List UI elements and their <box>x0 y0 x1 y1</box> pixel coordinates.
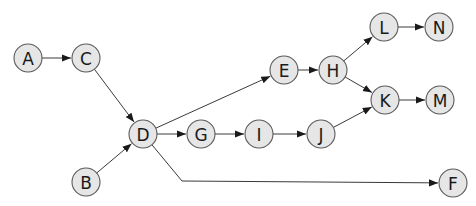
node-e: E <box>270 56 298 84</box>
edge-h-to-k <box>345 77 372 93</box>
node-m: M <box>426 86 454 114</box>
node-label: F <box>448 174 458 194</box>
node-label: A <box>22 49 34 69</box>
node-label: D <box>136 125 149 145</box>
node-label: K <box>379 91 391 111</box>
node-label: B <box>80 173 92 193</box>
node-i: I <box>245 120 273 148</box>
node-d: D <box>129 120 157 148</box>
node-label: I <box>256 125 261 145</box>
node-label: E <box>279 61 290 81</box>
node-c: C <box>72 44 100 72</box>
node-g: G <box>187 120 215 148</box>
node-j: J <box>307 120 335 148</box>
nodes-layer: ACBDGIJEHLNKMF <box>14 13 467 197</box>
node-b: B <box>72 168 100 196</box>
edge-b-to-d <box>97 144 132 173</box>
node-h: H <box>319 56 347 84</box>
node-a: A <box>14 44 42 72</box>
node-label: C <box>80 49 92 69</box>
edge-h-to-l <box>344 37 373 61</box>
directed-graph-diagram: ACBDGIJEHLNKMF <box>0 0 476 206</box>
node-n: N <box>425 13 453 41</box>
edge-d-to-e <box>156 76 271 128</box>
edge-d-to-f <box>152 145 438 183</box>
node-label: L <box>379 18 389 38</box>
node-l: L <box>370 13 398 41</box>
node-label: N <box>433 18 446 38</box>
node-label: G <box>194 125 207 145</box>
node-label: M <box>433 91 448 111</box>
edge-c-to-d <box>94 69 134 122</box>
node-k: K <box>371 86 399 114</box>
node-label: J <box>317 125 323 145</box>
node-label: H <box>327 61 340 81</box>
node-f: F <box>439 169 467 197</box>
edge-j-to-k <box>333 107 371 127</box>
